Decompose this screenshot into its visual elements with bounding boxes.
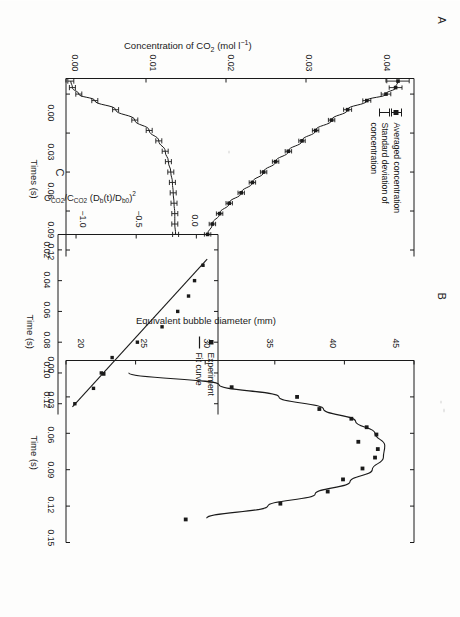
scan-speck-2 [443, 408, 445, 412]
scan-speck-1 [440, 400, 442, 403]
scan-speck-3 [228, 150, 230, 153]
panel-c-plot [14, 168, 236, 420]
figure-root: A Concentration of CO2 (mol l−1) 0.00 0.… [0, 0, 460, 617]
panel-c: C CCO2/CCO2 (Db(t)/Db0)2 0.0 −0.5 −1.0 0… [14, 168, 236, 420]
